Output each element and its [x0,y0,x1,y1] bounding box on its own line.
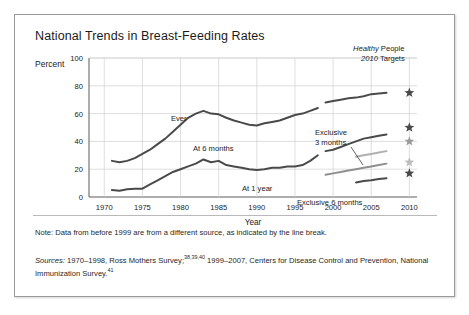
x-tick-label-2010: 2010 [401,203,418,212]
series-line-1 [325,93,386,103]
note-separator [33,215,437,216]
chart-note: Note: Data from before 1999 are from a d… [35,227,435,238]
sources-text-1: 1970–1998, Ross Mothers Survey; [65,256,184,265]
x-tick-label-1985: 1985 [210,203,227,212]
series-label-ever: Ever [171,114,187,123]
x-tick-labels-group: 197019751980198519901995200020052010 [96,203,418,212]
series-line-2 [112,155,318,190]
target-header-line-2: 2010 Targets [360,54,405,63]
chart-sources: Sources: 1970–1998, Ross Mothers Survey;… [35,253,439,279]
x-tick-label-1970: 1970 [96,203,113,212]
series-label-at-6-months: At 6 months [193,144,234,153]
y-tick-label-80: 80 [75,82,83,91]
y-tick-label-0: 0 [79,193,83,202]
series-line-0 [112,108,318,162]
sources-label: Sources: [35,256,65,265]
y-tick-label-60: 60 [75,110,83,119]
series-label-exclusive-6-months: Exclusive 6 months [297,198,363,207]
x-axis-title: Year [245,218,262,227]
x-tick-label-1990: 1990 [248,203,265,212]
sources-superscript-1: 38,39,40 [184,254,205,260]
y-tick-label-20: 20 [75,165,83,174]
x-tick-label-1980: 1980 [172,203,189,212]
healthy-people-target-header: Healthy People2010 Targets [353,44,405,63]
y-tick-label-40: 40 [75,137,83,146]
x-tick-label-1975: 1975 [134,203,151,212]
figure-panel: National Trends in Breast-Feeding Rates … [14,14,455,297]
y-tick-label-100: 100 [70,54,83,63]
series-label-exclusive-3-months-line1: Exclusive [315,128,347,137]
x-tick-label-2005: 2005 [363,203,380,212]
y-tick-labels-group: 020406080100 [70,54,83,202]
series-label-at-1-year: At 1 year [242,184,273,193]
gridlines-group [89,58,417,197]
target-header-line-1: Healthy People [353,44,405,53]
sources-superscript-2: 41 [107,267,113,273]
series-label-exclusive-3-months-line2: 3 months [315,138,346,147]
